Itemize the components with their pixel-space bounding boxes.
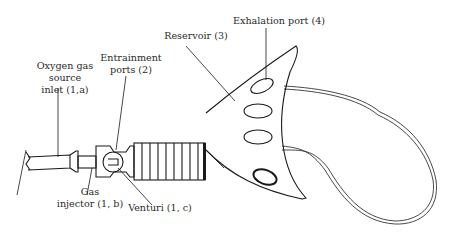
label-venturi: Venturi (1, c) <box>120 202 200 214</box>
label-reservoir: Reservoir (3) <box>156 30 236 42</box>
venturi-mask-diagram: Oxygen gas source inlet (1,a) Entrainmen… <box>0 0 453 236</box>
venturi-housing <box>96 146 134 177</box>
label-exhalation-port: Exhalation port (4) <box>224 15 334 27</box>
label-line: Entrainment <box>96 52 166 64</box>
label-line: ports (2) <box>96 64 166 76</box>
mask-body <box>206 46 306 199</box>
label-line: Gas <box>55 186 125 198</box>
label-line: source <box>30 72 100 84</box>
label-line: inlet (1,a) <box>30 84 100 96</box>
label-line: Oxygen gas <box>30 60 100 72</box>
label-oxygen-inlet: Oxygen gas source inlet (1,a) <box>30 60 100 96</box>
reservoir-bag <box>282 86 437 224</box>
label-line: injector (1, b) <box>55 198 125 210</box>
label-gas-injector: Gas injector (1, b) <box>55 186 125 210</box>
corrugated-tube <box>134 143 206 180</box>
label-entrainment-ports: Entrainment ports (2) <box>96 52 166 76</box>
gas-injector <box>78 156 96 168</box>
